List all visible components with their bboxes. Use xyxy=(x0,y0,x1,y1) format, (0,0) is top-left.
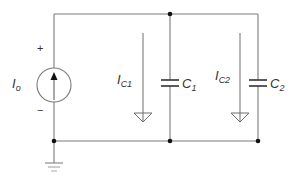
capacitor-c1-icon xyxy=(161,80,179,86)
current-arrow-ic1-icon xyxy=(134,33,152,122)
c1-label: C1 xyxy=(182,77,196,93)
node-top-c1 xyxy=(168,12,173,17)
current-source-icon xyxy=(37,68,71,102)
c2-label-sub: 2 xyxy=(279,83,284,93)
source-plus-sign: + xyxy=(37,43,43,54)
wires xyxy=(54,14,258,163)
c2-label-main: C xyxy=(270,76,279,91)
source-label-sub: o xyxy=(16,83,21,93)
capacitor-c2-icon xyxy=(249,80,267,86)
ground-icon xyxy=(45,163,63,171)
c1-label-main: C xyxy=(182,76,191,91)
ic1-label: IC1 xyxy=(117,73,132,89)
ic1-label-sub: C1 xyxy=(121,79,133,89)
source-minus-sign: − xyxy=(37,105,43,116)
node-bottom-source xyxy=(52,139,57,144)
c2-label: C2 xyxy=(270,77,284,93)
current-arrow-ic2-icon xyxy=(231,33,249,122)
c1-label-sub: 1 xyxy=(191,83,196,93)
ic2-label: IC2 xyxy=(215,69,230,85)
ic2-label-sub: C2 xyxy=(219,75,231,85)
source-label: Io xyxy=(12,77,21,93)
node-bottom-c1 xyxy=(168,139,173,144)
node-bottom-c2 xyxy=(256,139,261,144)
